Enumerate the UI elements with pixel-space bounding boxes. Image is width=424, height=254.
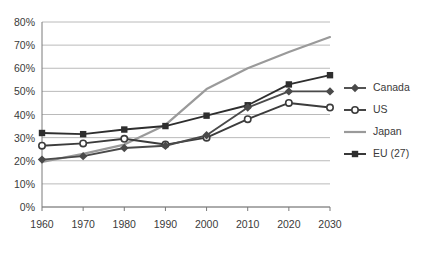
series-canada	[38, 87, 334, 164]
data-point	[203, 112, 209, 118]
legend-item-japan[interactable]: Japan	[344, 125, 402, 137]
data-point	[286, 100, 292, 106]
legend: CanadaUSJapanEU (27)	[344, 81, 410, 159]
legend-item-eu-27[interactable]: EU (27)	[344, 147, 409, 159]
legend-item-label: Canada	[373, 81, 410, 93]
legend-item-label: Japan	[373, 125, 402, 137]
legend-swatch-marker	[352, 151, 358, 157]
x-axis-tick-label: 1990	[154, 218, 178, 230]
legend-swatch-marker	[352, 107, 358, 113]
series-group	[38, 37, 334, 164]
legend-item-us[interactable]: US	[344, 103, 388, 115]
y-axis-tick-label: 70%	[14, 39, 35, 51]
x-axis-tick-label: 2020	[277, 218, 301, 230]
data-point	[121, 136, 127, 142]
data-point	[245, 116, 251, 122]
x-axis-tick-label: 2000	[195, 218, 219, 230]
x-axis-labels: 19601970198019902000201020202030	[30, 218, 342, 230]
y-axis-tick-label: 20%	[14, 155, 35, 167]
x-axis-tick-label: 1960	[30, 218, 54, 230]
legend-item-canada[interactable]: Canada	[344, 81, 410, 93]
gridlines-group	[42, 22, 330, 207]
y-axis-tick-label: 0%	[20, 201, 35, 213]
data-point	[80, 140, 86, 146]
data-point	[327, 72, 333, 78]
y-axis-labels: 0%10%20%30%40%50%60%70%80%	[14, 16, 35, 213]
series-line	[42, 103, 330, 146]
x-axis-tick-label: 1980	[113, 218, 137, 230]
data-point	[326, 87, 334, 95]
data-point	[39, 143, 45, 149]
chart-container: 0%10%20%30%40%50%60%70%80% 1960197019801…	[0, 0, 424, 254]
y-axis-tick-label: 40%	[14, 109, 35, 121]
axis-lines	[42, 22, 330, 211]
line-chart: 0%10%20%30%40%50%60%70%80% 1960197019801…	[0, 0, 424, 254]
y-axis-tick-label: 10%	[14, 178, 35, 190]
legend-item-label: EU (27)	[373, 147, 409, 159]
y-axis-tick-label: 30%	[14, 132, 35, 144]
y-axis-tick-label: 50%	[14, 85, 35, 97]
data-point	[80, 131, 86, 137]
data-point	[39, 130, 45, 136]
legend-item-label: US	[373, 103, 388, 115]
x-axis-tick-label: 1970	[71, 218, 95, 230]
x-axis-tick-label: 2010	[236, 218, 260, 230]
data-point	[286, 81, 292, 87]
data-point	[327, 104, 333, 110]
y-axis-tick-label: 60%	[14, 62, 35, 74]
data-point	[162, 123, 168, 129]
y-axis-tick-label: 80%	[14, 16, 35, 28]
data-point	[121, 126, 127, 132]
data-point	[38, 155, 46, 163]
x-axis-tick-label: 2030	[318, 218, 342, 230]
data-point	[285, 87, 293, 95]
legend-swatch-marker	[351, 84, 359, 92]
